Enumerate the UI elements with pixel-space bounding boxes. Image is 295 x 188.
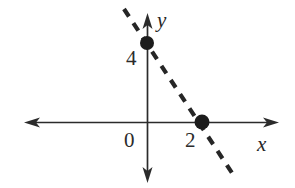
x-axis [24, 118, 279, 128]
point-x-intercept [195, 115, 210, 130]
point-y-intercept [140, 36, 154, 50]
dashed-line [124, 9, 236, 179]
y-axis-label: y [157, 10, 166, 31]
tick-label-2: 2 [185, 130, 196, 151]
tick-label-origin: 0 [124, 130, 135, 151]
graph-canvas [0, 0, 295, 188]
x-axis-label: x [257, 134, 266, 155]
tick-label-4: 4 [126, 48, 137, 69]
coordinate-plane-figure: y x 4 0 2 [0, 0, 295, 188]
